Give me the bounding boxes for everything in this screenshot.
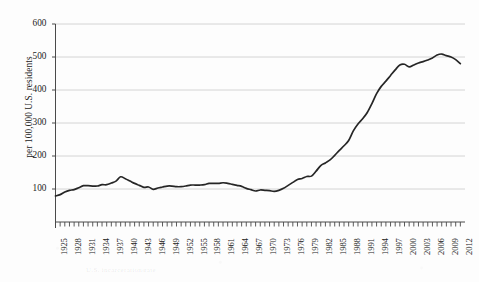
axis-lines	[56, 24, 466, 228]
ghost-caption-bleed: U.S. incarceration rate	[86, 266, 156, 274]
gridlines	[56, 24, 466, 189]
x-axis-ticks	[56, 222, 461, 227]
line-chart-plot	[0, 0, 479, 282]
figure-canvas: per 100,000 U.S. residents 1002003004005…	[0, 0, 479, 282]
y-axis-ticks	[52, 24, 56, 189]
data-series-line	[56, 54, 461, 196]
